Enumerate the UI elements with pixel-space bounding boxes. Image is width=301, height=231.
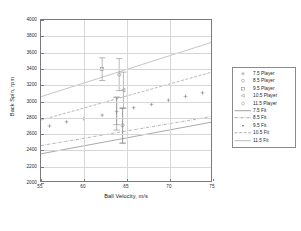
tick-mark-y xyxy=(41,20,44,21)
legend-label: 7.5 Player xyxy=(253,70,275,77)
x-tick-label: 65 xyxy=(114,184,138,190)
gridline-horizontal xyxy=(41,53,211,54)
legend-key-line xyxy=(233,114,253,121)
legend-key-line xyxy=(233,107,253,114)
x-tick-label: 60 xyxy=(71,184,95,190)
gridline-horizontal xyxy=(41,85,211,86)
legend-key-line xyxy=(233,129,253,136)
legend-item: 8.5 Fit xyxy=(233,114,295,121)
gridline-horizontal xyxy=(41,69,211,70)
legend-label: 8.5 Player xyxy=(253,77,275,84)
legend-item: 11.5 Fit xyxy=(233,137,295,144)
x-tick-label: 75 xyxy=(200,184,224,190)
legend-label: 8.5 Fit xyxy=(253,114,266,121)
x-axis-label: Ball Velocity, m/s xyxy=(40,193,212,200)
legend-item: 7.5 Player xyxy=(233,70,295,77)
tick-mark-y xyxy=(41,36,44,37)
legend-item: 10.5 Fit xyxy=(233,129,295,136)
gridline-horizontal xyxy=(41,118,211,119)
legend-key-triangle-left-icon xyxy=(233,92,253,99)
marker-circle xyxy=(242,80,245,83)
gridline-vertical xyxy=(170,20,171,181)
gridline-vertical xyxy=(84,20,85,181)
gridline-horizontal xyxy=(41,36,211,37)
gridline-horizontal xyxy=(41,134,211,135)
tick-mark-y xyxy=(41,167,44,168)
marker-triangle-left xyxy=(241,94,244,97)
y-tick-label: 2200 xyxy=(3,163,37,168)
legend-item: 9.5 Fit xyxy=(233,122,295,129)
x-tick-label: 55 xyxy=(28,184,52,190)
tick-mark-y xyxy=(41,150,44,151)
legend-key-line xyxy=(233,137,253,144)
legend-item: 9.5 Player xyxy=(233,85,295,92)
legend-item: 8.5 Player xyxy=(233,77,295,84)
tick-mark-y xyxy=(41,53,44,54)
y-tick-label: 4000 xyxy=(3,17,37,22)
legend-key-square-icon xyxy=(233,85,253,92)
y-axis-label: Back Spin, rpm xyxy=(9,47,16,147)
tick-mark-x xyxy=(41,179,42,182)
legend-item: 11.5 Player xyxy=(233,100,295,107)
legend-item: 10.5 Player xyxy=(233,92,295,99)
gridline-vertical xyxy=(127,20,128,181)
tick-mark-x xyxy=(170,179,171,182)
legend-item: 7.5 Fit xyxy=(233,107,295,114)
plot-area xyxy=(40,19,212,182)
marker-square xyxy=(242,87,245,90)
x-tick-label: 70 xyxy=(157,184,181,190)
tick-mark-x xyxy=(84,179,85,182)
legend-label: 9.5 Player xyxy=(253,85,275,92)
legend-key-circle-icon xyxy=(233,77,253,84)
plot-data-layer xyxy=(41,20,211,181)
tick-mark-y xyxy=(41,134,44,135)
y-axis-ticks: 2000220024002600280030003200340036003800… xyxy=(0,19,37,182)
y-tick-label: 3800 xyxy=(3,33,37,38)
legend-label: 11.5 Fit xyxy=(253,137,269,144)
fit-line xyxy=(41,122,211,154)
gridline-horizontal xyxy=(41,150,211,151)
gridline-horizontal xyxy=(41,167,211,168)
tick-mark-y xyxy=(41,102,44,103)
legend-label: 10.5 Fit xyxy=(253,129,269,136)
legend-label: 11.5 Player xyxy=(253,100,277,107)
legend-label: 10.5 Player xyxy=(253,92,277,99)
y-tick-label: 2400 xyxy=(3,147,37,152)
legend-label: 9.5 Fit xyxy=(253,122,266,129)
chart-legend: 7.5 Player8.5 Player9.5 Player10.5 Playe… xyxy=(232,67,296,148)
legend-key-plus-icon xyxy=(233,70,253,77)
legend-label: 7.5 Fit xyxy=(253,107,266,114)
gridline-horizontal xyxy=(41,102,211,103)
legend-key-circle-open-icon xyxy=(233,100,253,107)
marker-dot xyxy=(242,125,244,127)
tick-mark-y xyxy=(41,69,44,70)
tick-mark-y xyxy=(41,118,44,119)
tick-mark-x xyxy=(127,179,128,182)
marker-circle xyxy=(242,102,245,105)
tick-mark-y xyxy=(41,85,44,86)
tick-mark-x xyxy=(213,179,214,182)
chart-figure: 2000220024002600280030003200340036003800… xyxy=(0,0,301,231)
legend-key-line xyxy=(233,122,253,129)
